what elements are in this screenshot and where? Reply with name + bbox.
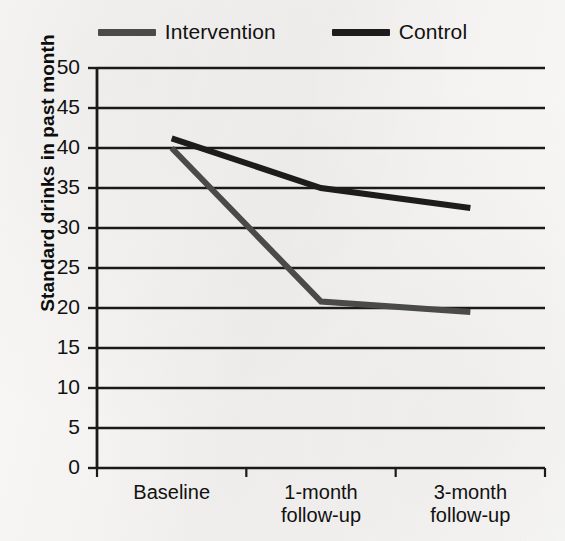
x-tick-label-line: 1-month xyxy=(236,481,406,504)
x-axis-tick-labels: Baseline1-monthfollow-up3-monthfollow-up xyxy=(0,481,565,541)
x-tick-label-line: follow-up xyxy=(385,504,555,527)
x-tick-label: Baseline xyxy=(87,481,257,504)
series-line-intervention xyxy=(172,148,471,312)
chart-figure: Intervention Control Standard drinks in … xyxy=(0,0,565,541)
x-tick-label: 1-monthfollow-up xyxy=(236,481,406,527)
x-tick-label: 3-monthfollow-up xyxy=(385,481,555,527)
x-tick-label-line: Baseline xyxy=(87,481,257,504)
plot-area xyxy=(0,0,565,541)
x-tick-label-line: 3-month xyxy=(385,481,555,504)
x-tick-label-line: follow-up xyxy=(236,504,406,527)
